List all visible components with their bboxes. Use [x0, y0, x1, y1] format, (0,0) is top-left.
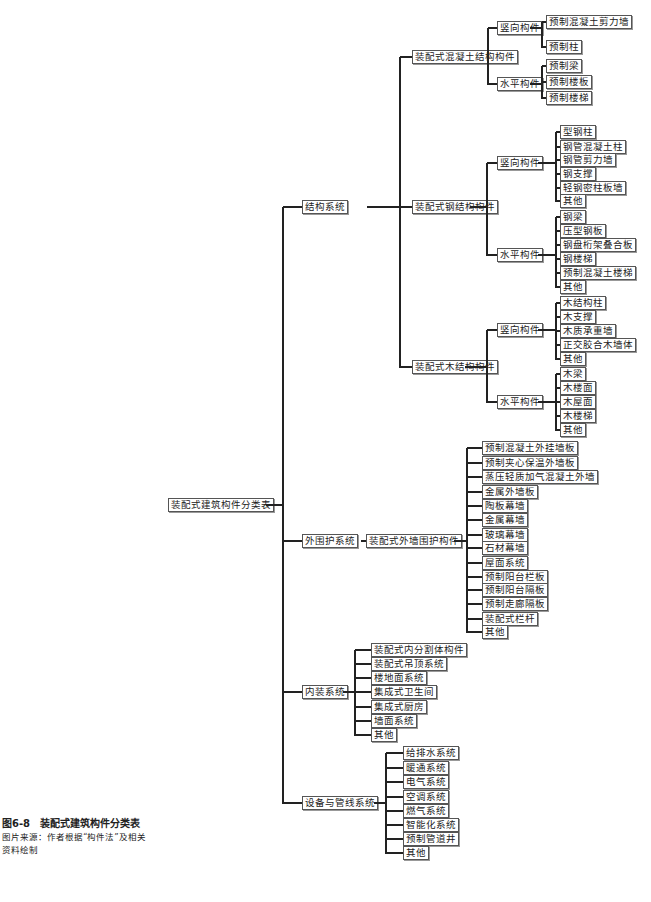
root-node: 装配式建筑构件分类表 [168, 498, 274, 512]
connector-line [355, 720, 371, 722]
leaf-node: 玻璃幕墙 [482, 528, 528, 542]
connector-line [486, 163, 488, 256]
leaf-node: 其他 [560, 352, 586, 366]
connector-line [386, 852, 403, 854]
leaf-node: 预制走廊隔板 [482, 597, 548, 611]
leaf-node: 暖通系统 [403, 761, 449, 775]
figure-source-line-1: 图片来源：作者根据“构件法”及相关 [2, 831, 172, 844]
leaf-node: 陶板幕墙 [482, 499, 528, 513]
level2-node: 装配式外墙围护构件 [366, 534, 462, 548]
connector-line [467, 547, 482, 549]
leaf-node: 装配式吊顶系统 [371, 657, 447, 671]
connector-line [467, 519, 482, 521]
figure-caption: 图6-8 装配式建筑构件分类表 图片来源：作者根据“构件法”及相关 资料绘制 [2, 817, 172, 857]
connector-line [400, 56, 412, 58]
leaf-node: 电气系统 [403, 775, 449, 789]
leaf-node: 钢管混凝土柱 [560, 140, 626, 154]
leaf-node: 装配式栏杆 [482, 612, 538, 626]
connector-line [386, 752, 403, 754]
leaf-node: 木质承重墙 [560, 324, 616, 338]
connector-line [386, 796, 403, 798]
leaf-node: 其他 [403, 846, 429, 860]
leaf-node: 木屋面 [560, 395, 596, 409]
leaf-node: 钢梁 [560, 210, 586, 224]
leaf-node: 轻钢密柱板墙 [560, 181, 626, 195]
connector-line [467, 576, 482, 578]
leaf-node: 石材幕墙 [482, 541, 528, 555]
connector-line [467, 462, 482, 464]
leaf-node: 预制混凝土楼梯 [560, 266, 636, 280]
connector-line [467, 476, 482, 478]
connector-line [470, 206, 487, 208]
leaf-node: 空调系统 [403, 790, 449, 804]
leaf-node: 木支撑 [560, 310, 596, 324]
leaf-node: 其他 [560, 194, 586, 208]
level1-node: 设备与管线系统 [302, 796, 378, 810]
leaf-node: 其他 [482, 625, 508, 639]
connector-line [355, 677, 371, 679]
level1-node: 结构系统 [302, 200, 348, 214]
connector-line [538, 329, 556, 331]
leaf-node: 压型钢板 [560, 224, 606, 238]
connector-line [488, 83, 497, 85]
leaf-node: 楼地面系统 [371, 671, 427, 685]
connector-line [541, 22, 543, 48]
leaf-node: 集成式卫生间 [371, 685, 437, 699]
leaf-node: 预制混凝土外挂墙板 [482, 441, 578, 455]
connector-line [355, 691, 371, 693]
classification-tree-diagram: 装配式建筑构件分类表结构系统外围护系统内装系统设备与管线系统装配式混凝土结构构件… [0, 0, 651, 902]
leaf-node: 钢楼梯 [560, 252, 596, 266]
connector-line [467, 505, 482, 507]
connector-line [538, 401, 556, 403]
leaf-node: 屋面系统 [482, 556, 528, 570]
leaf-node: 预制夹心保温外墙板 [482, 456, 578, 470]
leaf-node: 木结构柱 [560, 296, 606, 310]
connector-line [399, 57, 401, 368]
leaf-node: 集成式厨房 [371, 700, 427, 714]
connector-line [488, 27, 497, 29]
connector-line [386, 824, 403, 826]
figure-source-line-2: 资料绘制 [2, 844, 172, 857]
connector-line [555, 217, 557, 288]
leaf-node: 预制阳台隔板 [482, 583, 548, 597]
connector-line [487, 254, 497, 256]
connector-line [467, 631, 482, 633]
figure-title: 图6-8 装配式建筑构件分类表 [2, 817, 172, 831]
leaf-node: 装配式内分割体构件 [371, 643, 467, 657]
leaf-node: 金属幕墙 [482, 513, 528, 527]
leaf-node: 钢盘桁架叠合板 [560, 238, 636, 252]
leaf-node: 木楼梯 [560, 409, 596, 423]
level3-node: 竖向构件 [497, 156, 543, 170]
connector-line [355, 734, 371, 736]
connector-line [386, 838, 403, 840]
leaf-node: 其他 [560, 280, 586, 294]
level3-node: 水平构件 [497, 395, 543, 409]
level3-node: 竖向构件 [497, 323, 543, 337]
leaf-node: 燃气系统 [403, 804, 449, 818]
connector-line [355, 649, 371, 651]
connector-line [400, 206, 412, 208]
connector-line [355, 663, 371, 665]
leaf-node: 墙面系统 [371, 714, 417, 728]
connector-line [467, 603, 482, 605]
leaf-node: 预制管道井 [403, 832, 459, 846]
connector-line [266, 504, 283, 506]
leaf-node: 木梁 [560, 367, 586, 381]
connector-line [355, 706, 371, 708]
connector-line [467, 589, 482, 591]
connector-line [467, 447, 482, 449]
connector-line [487, 329, 497, 331]
connector-line [486, 330, 488, 403]
connector-line [487, 28, 489, 85]
leaf-node: 预制混凝土剪力墙 [546, 15, 632, 29]
connector-line [283, 802, 302, 804]
connector-line [467, 534, 482, 536]
leaf-node: 型钢柱 [560, 125, 596, 139]
leaf-node: 正交胶合木墙体 [560, 338, 636, 352]
connector-line [400, 366, 412, 368]
level3-node: 水平构件 [497, 248, 543, 262]
leaf-node: 钢管剪力墙 [560, 153, 616, 167]
leaf-node: 预制阳台栏板 [482, 570, 548, 584]
leaf-node: 其他 [560, 423, 586, 437]
leaf-node: 智能化系统 [403, 818, 459, 832]
